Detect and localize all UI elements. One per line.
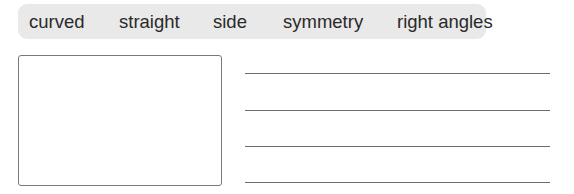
answer-line-4[interactable] [245,182,550,183]
word-curved: curved [29,11,85,33]
word-bank: curved straight side symmetry right angl… [18,4,486,39]
word-straight: straight [119,11,180,33]
word-right-angles: right angles [397,11,493,33]
answer-line-1[interactable] [245,73,550,74]
drawing-box[interactable] [18,55,222,186]
word-symmetry: symmetry [283,11,363,33]
answer-line-3[interactable] [245,146,550,147]
word-side: side [213,11,247,33]
answer-line-2[interactable] [245,110,550,111]
